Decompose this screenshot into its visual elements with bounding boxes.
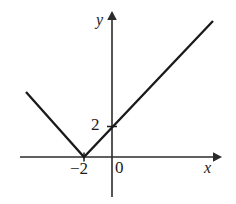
graph-figure: y x 2 −2 0: [0, 0, 236, 204]
y-axis-label: y: [96, 12, 103, 28]
origin-label: 0: [115, 159, 124, 176]
y-axis-arrowhead: [107, 11, 117, 20]
x-axis-arrowhead: [213, 152, 222, 162]
abs-value-curve: [26, 21, 213, 157]
y-intercept-label: 2: [91, 116, 100, 133]
x-axis-label: x: [204, 160, 211, 176]
x-vertex-label: −2: [70, 160, 88, 177]
